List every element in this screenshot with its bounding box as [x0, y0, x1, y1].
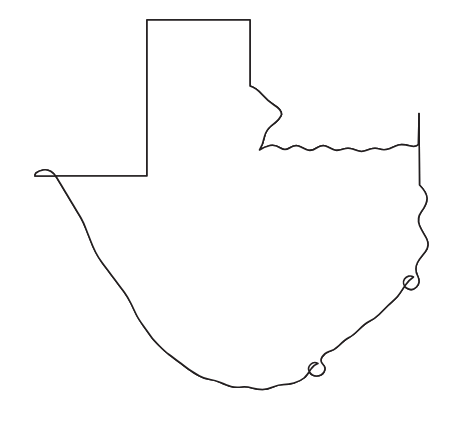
map-canvas: [0, 0, 469, 423]
texas-boundary-overstroke: [35, 20, 428, 390]
texas-outline-map: [0, 0, 469, 423]
